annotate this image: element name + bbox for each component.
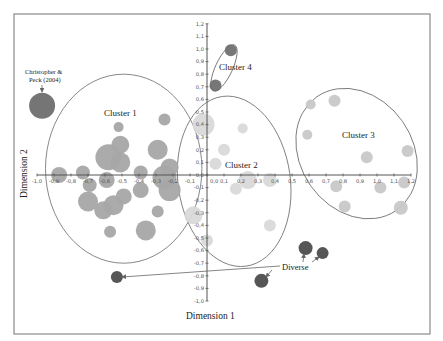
x-tick-label: 0,1	[220, 178, 228, 184]
christopher-peck-label-line2: Peck (2004)	[29, 76, 61, 84]
bubble	[238, 123, 248, 133]
x-tick-label: 0,9	[356, 178, 364, 184]
y-tick-label: 0,8	[196, 71, 204, 77]
x-tick-label: -0,7	[83, 178, 93, 184]
x-tick-label: -0,5	[117, 178, 127, 184]
y-tick-label: -0,8	[194, 273, 204, 279]
y-tick-label: 0,2	[196, 147, 204, 153]
bubble-chart: -1,0-0,9-0,8-0,7-0,6-0,5-0,4-0,3-0,2-0,1…	[0, 0, 443, 341]
x-tick-label: -0,3	[151, 178, 161, 184]
x-tick-label: -0,9	[49, 178, 59, 184]
bubble	[148, 140, 168, 160]
x-tick-label: -0,2	[168, 178, 178, 184]
bubble	[210, 158, 222, 170]
x-tick-label: -0,6	[100, 178, 110, 184]
bubble	[230, 183, 242, 195]
x-tick-label: 0,8	[339, 178, 347, 184]
x-tick-label: 0,7	[322, 178, 330, 184]
bubble	[254, 274, 268, 288]
y-tick-label: 0,7	[196, 84, 204, 90]
bubble	[104, 226, 116, 238]
x-axis-title: Dimension 1	[186, 311, 235, 321]
diverse-label: Diverse	[282, 262, 309, 272]
bubble	[225, 44, 237, 56]
x-tick-label: 1,2	[407, 178, 415, 184]
bubble	[133, 182, 149, 198]
y-tick-label: -0,6	[194, 247, 204, 253]
y-tick-label: 0,6	[196, 96, 204, 102]
y-tick-label: 0,4	[196, 121, 205, 127]
y-tick-label: -0,1	[194, 184, 204, 190]
y-tick-label: 0,0	[196, 172, 204, 178]
bubble	[402, 145, 414, 157]
x-tick-label: -0,1	[185, 178, 195, 184]
bubble	[361, 151, 373, 163]
y-tick-label: -0,9	[194, 285, 204, 291]
y-tick-label: -0,2	[194, 197, 204, 203]
x-tick-label: 0,5	[288, 178, 296, 184]
bubble	[111, 271, 123, 283]
y-tick-label: 0,3	[196, 134, 204, 140]
x-tick-label: 1,1	[390, 178, 398, 184]
bubble	[339, 201, 351, 213]
bubble	[329, 95, 341, 107]
bubble	[29, 93, 55, 119]
bubble	[136, 220, 156, 240]
x-tick-label: 1,0	[373, 178, 381, 184]
y-tick-label: 1,1	[196, 33, 204, 39]
cluster-1-label: Cluster 1	[104, 108, 137, 118]
christopher-peck-label-line1: Christopher &	[25, 68, 62, 75]
bubble	[264, 219, 276, 231]
y-tick-label: 0,5	[196, 109, 204, 115]
y-tick-label: -0,4	[194, 222, 205, 228]
y-tick-label: -0,3	[194, 210, 204, 216]
y-axis-title: Dimension 2	[19, 149, 29, 198]
y-tick-label: -0,5	[194, 235, 204, 241]
y-tick-label: -0,7	[194, 260, 204, 266]
x-tick-label: 0,4	[271, 178, 280, 184]
x-tick-label: -1,0	[32, 178, 42, 184]
bubble	[116, 188, 132, 204]
bubble	[299, 241, 313, 255]
y-tick-label: 0,1	[196, 159, 204, 165]
y-tick-label: -1,0	[194, 298, 204, 304]
x-tick-label: -0,4	[134, 178, 145, 184]
bubble	[394, 201, 408, 215]
cluster-2-label: Cluster 2	[225, 160, 258, 170]
x-tick-label: -0,8	[66, 178, 76, 184]
bubble	[306, 99, 316, 109]
cluster-3-label: Cluster 3	[342, 130, 375, 140]
bubble	[114, 122, 124, 132]
y-tick-label: 1,0	[196, 46, 204, 52]
bubble	[152, 206, 164, 218]
y-tick-label: 1,2	[196, 21, 204, 27]
bubble	[161, 158, 179, 176]
x-tick-label: 0,3	[254, 178, 262, 184]
cluster-4-label: Cluster 4	[219, 62, 252, 72]
x-tick-label: 0,2	[237, 178, 245, 184]
bubble	[110, 152, 130, 172]
bubble	[218, 144, 230, 156]
x-tick-label: 0,0	[210, 178, 218, 184]
x-tick-label: 0,6	[305, 178, 313, 184]
bubble	[302, 130, 312, 140]
bubble	[210, 80, 222, 92]
y-tick-label: 0,9	[196, 58, 204, 64]
series-christopher-peck-2004-	[29, 93, 55, 119]
bubble	[159, 114, 171, 126]
